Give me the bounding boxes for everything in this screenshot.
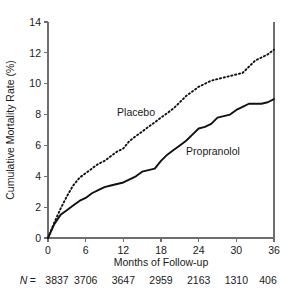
numbers-at-risk-row: N=383737063647295921631310406 bbox=[20, 274, 277, 286]
cumulative-mortality-chart: 02468101214 061218243036 PlaceboProprano… bbox=[0, 0, 294, 300]
x-tick-label: 12 bbox=[117, 244, 129, 256]
numbers-at-risk-value: 3837 bbox=[45, 274, 69, 286]
numbers-at-risk-value: 3706 bbox=[74, 274, 98, 286]
x-tick-label: 18 bbox=[155, 244, 167, 256]
x-axis-ticks: 061218243036 bbox=[45, 238, 280, 256]
y-tick-label: 4 bbox=[35, 170, 41, 182]
n-symbol: N bbox=[20, 274, 28, 286]
y-tick-label: 14 bbox=[29, 16, 41, 28]
x-tick-label: 0 bbox=[45, 244, 51, 256]
y-tick-label: 10 bbox=[29, 77, 41, 89]
y-tick-label: 8 bbox=[35, 108, 41, 120]
y-tick-label: 0 bbox=[35, 232, 41, 244]
y-axis-ticks: 02468101214 bbox=[29, 16, 48, 244]
series-label-placebo: Placebo bbox=[117, 106, 155, 118]
figure-container: 02468101214 061218243036 PlaceboProprano… bbox=[0, 0, 294, 300]
numbers-at-risk-value: 3647 bbox=[112, 274, 136, 286]
numbers-at-risk-value: 1310 bbox=[225, 274, 249, 286]
x-axis-title: Months of Follow-up bbox=[114, 256, 209, 268]
series-line-propranolol bbox=[48, 99, 274, 238]
x-tick-label: 36 bbox=[268, 244, 280, 256]
chart-series-group bbox=[48, 50, 274, 238]
x-tick-label: 30 bbox=[230, 244, 242, 256]
x-tick-label: 6 bbox=[83, 244, 89, 256]
chart-axes bbox=[48, 22, 274, 238]
y-tick-label: 6 bbox=[35, 139, 41, 151]
numbers-at-risk-prefix: N= bbox=[20, 274, 36, 286]
series-line-placebo bbox=[48, 50, 274, 238]
numbers-at-risk-value: 406 bbox=[259, 274, 277, 286]
numbers-at-risk-value: 2163 bbox=[187, 274, 211, 286]
y-tick-label: 2 bbox=[35, 201, 41, 213]
x-tick-label: 24 bbox=[193, 244, 205, 256]
series-label-propranolol: Propranolol bbox=[186, 145, 240, 157]
series-annotation-group: PlaceboPropranolol bbox=[117, 106, 240, 157]
y-tick-label: 12 bbox=[29, 47, 41, 59]
y-axis-title: Cumulative Mortality Rate (%) bbox=[4, 60, 16, 199]
numbers-at-risk-value: 2959 bbox=[149, 274, 173, 286]
